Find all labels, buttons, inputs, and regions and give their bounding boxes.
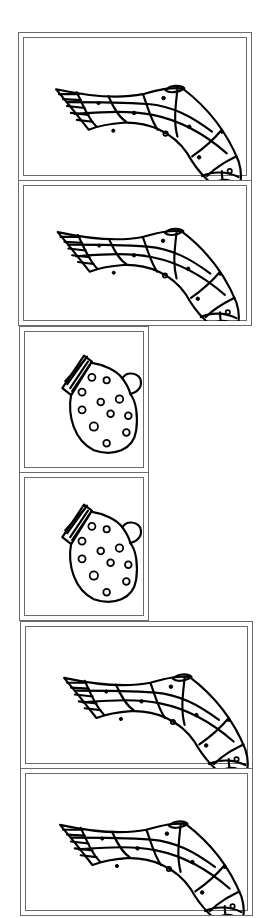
mitten-icon bbox=[20, 327, 148, 472]
card-stocking-3[interactable]: stocking bbox=[20, 621, 253, 769]
stocking-icon bbox=[19, 177, 251, 321]
card-mitten-1[interactable]: mitten bbox=[19, 326, 149, 473]
stocking-icon bbox=[19, 33, 251, 180]
stocking-icon bbox=[23, 769, 254, 915]
stocking-icon bbox=[27, 622, 258, 768]
card-stocking-2[interactable]: stocking bbox=[18, 180, 252, 326]
card-stocking-4[interactable]: stocking bbox=[20, 768, 253, 916]
card-stocking-1[interactable]: stocking bbox=[18, 32, 252, 181]
card-mitten-2[interactable]: mitten bbox=[19, 472, 149, 621]
mitten-icon bbox=[20, 475, 148, 622]
